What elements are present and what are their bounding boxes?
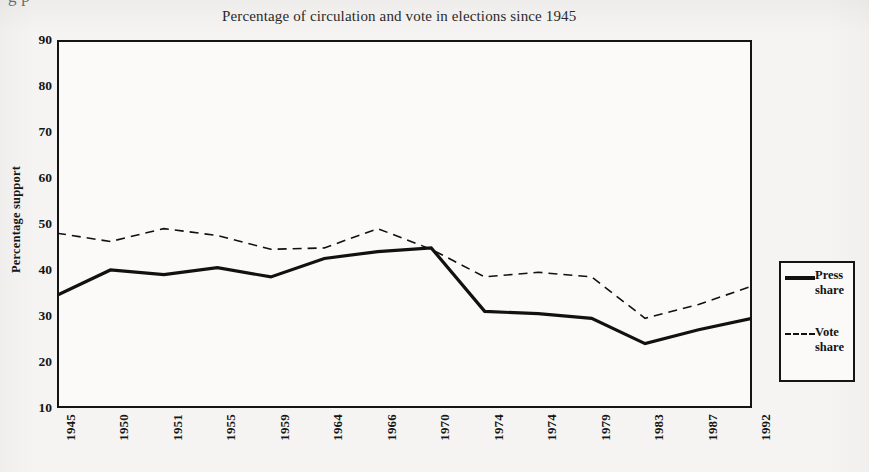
legend-label-vote-share: Voteshare — [815, 325, 857, 356]
x-axis-tick-5-1964: 1964 — [330, 414, 346, 441]
y-axis-tick-50: 50 — [22, 217, 52, 231]
chart-legend: Pressshare Voteshare — [779, 261, 855, 382]
x-axis-tick-9-1974: 1974 — [544, 414, 560, 441]
y-axis-tick-10: 10 — [22, 401, 52, 415]
x-axis-tick-10-1979: 1979 — [598, 414, 614, 441]
x-axis-tick-11-1983: 1983 — [651, 414, 667, 441]
y-axis-tick-40: 40 — [22, 263, 52, 277]
plot-area — [57, 40, 752, 408]
y-axis-tick-60: 60 — [22, 171, 52, 185]
chart-title: Percentage of circulation and vote in el… — [222, 8, 576, 25]
x-axis-tick-2-1951: 1951 — [170, 414, 186, 441]
y-axis-tick-20: 20 — [22, 355, 52, 369]
x-axis-tick-3-1955: 1955 — [223, 414, 239, 441]
x-axis-tick-0-1945: 1945 — [63, 414, 79, 441]
y-axis-tick-labels: 908070605040302010 — [18, 0, 52, 472]
x-axis-tick-4-1959: 1959 — [277, 414, 293, 441]
y-axis-tick-80: 80 — [22, 79, 52, 93]
legend-swatch-solid-line-icon — [785, 276, 815, 280]
x-axis-tick-1-1950: 1950 — [116, 414, 132, 441]
y-axis-tick-70: 70 — [22, 125, 52, 139]
x-axis-tick-8-1974: 1974 — [491, 414, 507, 441]
x-axis-tick-12-1987: 1987 — [705, 414, 721, 441]
y-axis-tick-30: 30 — [22, 309, 52, 323]
series-line-press-share — [57, 248, 752, 344]
legend-label-press-share: Pressshare — [815, 268, 857, 299]
legend-entry-vote-share: Voteshare — [781, 325, 853, 369]
x-axis-tick-13-1992: 1992 — [758, 414, 774, 441]
y-axis-tick-90: 90 — [22, 33, 52, 47]
legend-entry-press-share: Pressshare — [781, 268, 853, 312]
x-axis-tick-7-1970: 1970 — [437, 414, 453, 441]
x-axis-tick-labels: 1945195019511955195919641966197019741974… — [57, 408, 752, 472]
legend-swatch-dashed-line-icon — [785, 333, 815, 335]
x-axis-tick-6-1966: 1966 — [384, 414, 400, 441]
